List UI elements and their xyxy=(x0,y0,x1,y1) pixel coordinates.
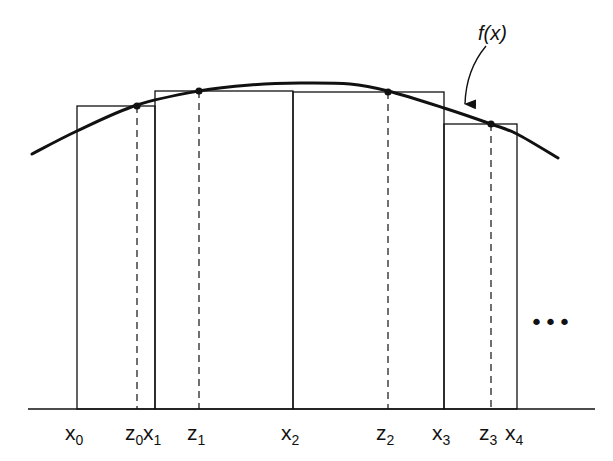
sample-dot-z2 xyxy=(384,88,391,95)
rectangle-3 xyxy=(444,124,517,409)
riemann-sum-diagram: f(x) ••• x0x1x2x3x4z0z1z2z3 xyxy=(0,0,613,461)
continuation-ellipsis: ••• xyxy=(530,310,572,335)
label-x4: x4 xyxy=(505,421,524,448)
function-label-arrow-icon xyxy=(465,46,486,104)
axis-labels: x0x1x2x3x4z0z1z2z3 xyxy=(65,421,524,448)
label-z2: z2 xyxy=(376,421,395,448)
label-z3: z3 xyxy=(479,421,498,448)
sample-dot-z3 xyxy=(487,120,494,127)
sample-dot-z0 xyxy=(133,102,140,109)
label-x1: x1 xyxy=(143,421,162,448)
label-x0: x0 xyxy=(65,421,84,448)
label-x2: x2 xyxy=(281,421,300,448)
rectangles-group xyxy=(77,91,517,409)
function-label: f(x) xyxy=(478,22,507,44)
rectangle-2 xyxy=(293,92,444,409)
sample-point-guides xyxy=(137,91,491,409)
label-z0: z0 xyxy=(125,421,144,448)
rectangle-1 xyxy=(155,91,293,409)
label-z1: z1 xyxy=(187,421,206,448)
function-curve xyxy=(32,83,558,158)
label-x3: x3 xyxy=(432,421,451,448)
sample-dot-z1 xyxy=(195,87,202,94)
rectangle-0 xyxy=(77,106,155,409)
